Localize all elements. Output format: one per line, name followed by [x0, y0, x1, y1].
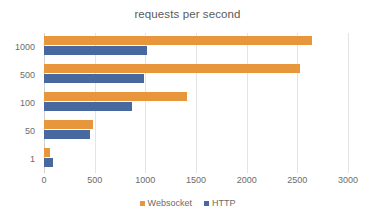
bar-group [44, 61, 348, 89]
bar-group [44, 89, 348, 117]
legend-swatch-icon [140, 201, 145, 206]
x-tick-label-0: 0 [41, 175, 46, 185]
chart-legend: WebsocketHTTP [0, 198, 375, 208]
x-tick-label-3000: 3000 [338, 175, 358, 185]
bar-group [44, 33, 348, 61]
x-axis-labels: 050010001500200025003000 [44, 175, 348, 189]
chart-title: requests per second [0, 8, 375, 20]
gridline [348, 33, 349, 173]
y-axis-labels: 1000500100501 [0, 33, 40, 173]
bar-websocket-500 [44, 64, 300, 73]
bar-websocket-100 [44, 92, 187, 101]
legend-label: HTTP [212, 198, 236, 208]
bar-http-50 [44, 130, 90, 139]
y-tick-label-1: 1 [30, 145, 35, 173]
y-tick-label-50: 50 [25, 117, 35, 145]
bar-group [44, 145, 348, 173]
legend-label: Websocket [148, 198, 192, 208]
x-tick-label-2000: 2000 [237, 175, 257, 185]
bar-http-1 [44, 158, 53, 167]
legend-item-websocket[interactable]: Websocket [140, 198, 192, 208]
chart-container: requests per second 1000500100501 050010… [0, 0, 375, 219]
x-tick-label-2500: 2500 [287, 175, 307, 185]
bar-websocket-50 [44, 120, 93, 129]
bar-http-1000 [44, 46, 147, 55]
y-tick-label-100: 100 [20, 89, 35, 117]
bar-websocket-1 [44, 148, 50, 157]
legend-item-http[interactable]: HTTP [204, 198, 236, 208]
bar-http-100 [44, 102, 132, 111]
plot-area [44, 33, 348, 173]
bar-group [44, 117, 348, 145]
y-tick-label-500: 500 [20, 61, 35, 89]
bar-websocket-1000 [44, 36, 312, 45]
x-tick-label-500: 500 [87, 175, 102, 185]
x-tick-label-1000: 1000 [135, 175, 155, 185]
y-tick-label-1000: 1000 [15, 33, 35, 61]
x-tick-label-1500: 1500 [186, 175, 206, 185]
bar-http-500 [44, 74, 144, 83]
legend-swatch-icon [204, 201, 209, 206]
